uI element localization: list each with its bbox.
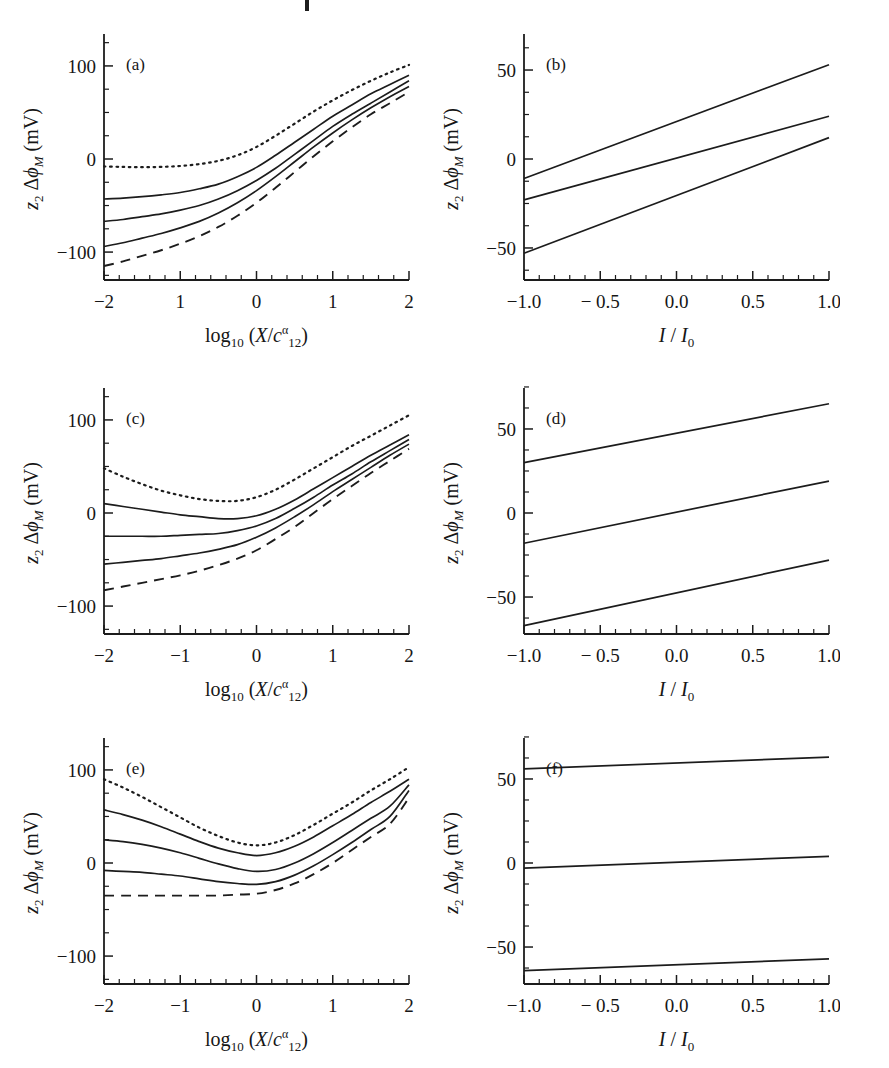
y-tick-label: −100	[57, 242, 96, 263]
x-tick-label: 0	[252, 291, 262, 312]
plot-c: −1000100−2−1012(c)z2 ΔϕM (mV)log10 (X/cα…	[0, 362, 420, 714]
y-tick-label: 100	[68, 760, 97, 781]
y-tick-label: 50	[497, 769, 516, 790]
x-tick-label: 2	[404, 995, 414, 1016]
x-tick-label: 1.0	[817, 995, 840, 1016]
panel-f: −50050−1.0− 0.50.00.51.0(f)z2 ΔϕM (mV)I …	[420, 712, 840, 1064]
x-axis-title: log10 (X/cα12)	[205, 323, 308, 350]
y-tick-label: −50	[486, 238, 516, 259]
panel-label: (a)	[126, 55, 145, 74]
data-series-solid-1	[104, 435, 409, 519]
x-tick-label: 0.0	[665, 291, 689, 312]
x-tick-label: 0.5	[741, 995, 765, 1016]
y-axis-title: z2 ΔϕM (mV)	[20, 108, 46, 211]
x-axis-title: log10 (X/cα12)	[205, 1027, 308, 1054]
x-tick-label: − 0.5	[581, 995, 620, 1016]
x-tick-label: 1	[176, 291, 186, 312]
data-series-dashed-lower	[104, 449, 409, 590]
data-series-line-bottom	[524, 959, 829, 971]
y-tick-label: 50	[497, 60, 516, 81]
y-axis-title: z2 ΔϕM (mV)	[20, 462, 46, 565]
y-tick-label: −50	[486, 587, 516, 608]
panel-label: (e)	[126, 759, 145, 778]
y-tick-label: 100	[68, 410, 97, 431]
x-tick-label: 2	[404, 291, 414, 312]
plot-e: −1000100−2−1012(e)z2 ΔϕM (mV)log10 (X/cα…	[0, 712, 420, 1064]
y-tick-label: −100	[57, 596, 96, 617]
x-tick-label: −2	[94, 645, 114, 666]
x-tick-label: −1	[170, 645, 190, 666]
panel-label: (d)	[546, 409, 566, 428]
data-series-dashed-lower	[104, 92, 409, 266]
plot-f: −50050−1.0− 0.50.00.51.0(f)z2 ΔϕM (mV)I …	[420, 712, 840, 1064]
data-series-line-middle	[524, 116, 829, 200]
x-tick-label: 0.5	[741, 291, 765, 312]
data-series-solid-2	[104, 81, 409, 222]
y-axis-title: z2 ΔϕM (mV)	[440, 108, 466, 211]
panel-e: −1000100−2−1012(e)z2 ΔϕM (mV)log10 (X/cα…	[0, 712, 420, 1064]
x-tick-label: 1	[328, 995, 338, 1016]
x-tick-label: −1.0	[507, 645, 541, 666]
data-series-dotted-upper	[104, 415, 409, 501]
panel-d: −50050−1.0− 0.50.00.51.0(d)z2 ΔϕM (mV)I …	[420, 362, 840, 714]
x-tick-label: − 0.5	[581, 645, 620, 666]
y-tick-label: −100	[57, 946, 96, 967]
plot-b: −50050−1.0− 0.50.00.51.0(b)z2 ΔϕM (mV)I …	[420, 8, 840, 360]
x-axis-title: I / I0	[658, 1028, 694, 1054]
data-series-solid-3	[104, 790, 409, 884]
y-axis-title: z2 ΔϕM (mV)	[440, 462, 466, 565]
panel-label: (b)	[546, 55, 566, 74]
panel-c: −1000100−2−1012(c)z2 ΔϕM (mV)log10 (X/cα…	[0, 362, 420, 714]
x-tick-label: 0.0	[665, 645, 689, 666]
data-series-dotted-upper	[104, 65, 409, 167]
y-tick-label: 0	[507, 503, 517, 524]
y-axis-title: z2 ΔϕM (mV)	[20, 812, 46, 915]
y-tick-label: 0	[87, 853, 97, 874]
x-tick-label: 1	[328, 645, 338, 666]
x-tick-label: −2	[94, 995, 114, 1016]
x-tick-label: − 0.5	[581, 291, 620, 312]
plot-a: −1000100−21012(a)z2 ΔϕM (mV)log10 (X/cα1…	[0, 8, 420, 360]
panel-a: −1000100−21012(a)z2 ΔϕM (mV)log10 (X/cα1…	[0, 8, 420, 360]
x-tick-label: 1	[328, 291, 338, 312]
x-tick-label: −1	[170, 995, 190, 1016]
x-tick-label: 1.0	[817, 645, 840, 666]
data-series-dotted-upper	[104, 767, 409, 845]
panel-label: (c)	[126, 409, 145, 428]
data-series-line-middle	[524, 481, 829, 543]
data-series-line-bottom	[524, 138, 829, 254]
data-series-solid-2	[104, 785, 409, 872]
x-tick-label: −1.0	[507, 291, 541, 312]
x-tick-label: −1.0	[507, 995, 541, 1016]
y-tick-label: 0	[87, 503, 97, 524]
x-axis-title: I / I0	[658, 324, 694, 350]
x-tick-label: 2	[404, 645, 414, 666]
data-series-dashed-lower	[104, 798, 409, 896]
x-tick-label: −2	[94, 291, 114, 312]
data-series-line-middle	[524, 856, 829, 868]
panel-b: −50050−1.0− 0.50.00.51.0(b)z2 ΔϕM (mV)I …	[420, 8, 840, 360]
y-axis-title: z2 ΔϕM (mV)	[440, 812, 466, 915]
data-series-line-bottom	[524, 560, 829, 626]
x-tick-label: 0.5	[741, 645, 765, 666]
data-series-solid-3	[104, 444, 409, 564]
x-tick-label: 1.0	[817, 291, 840, 312]
y-tick-label: 0	[87, 149, 97, 170]
figure-canvas: −1000100−21012(a)z2 ΔϕM (mV)log10 (X/cα1…	[0, 0, 889, 1068]
y-tick-label: 50	[497, 419, 516, 440]
x-tick-label: 0	[252, 645, 262, 666]
x-tick-label: 0	[252, 995, 262, 1016]
y-tick-label: 100	[68, 56, 97, 77]
data-series-solid-1	[104, 779, 409, 855]
data-series-line-top	[524, 65, 829, 179]
data-series-line-top	[524, 404, 829, 463]
data-series-line-top	[524, 757, 829, 769]
x-axis-title: log10 (X/cα12)	[205, 677, 308, 704]
y-tick-label: 0	[507, 853, 517, 874]
plot-d: −50050−1.0− 0.50.00.51.0(d)z2 ΔϕM (mV)I …	[420, 362, 840, 714]
y-tick-label: −50	[486, 937, 516, 958]
y-tick-label: 0	[507, 149, 517, 170]
x-axis-title: I / I0	[658, 678, 694, 704]
panel-label: (f)	[546, 759, 563, 778]
x-tick-label: 0.0	[665, 995, 689, 1016]
